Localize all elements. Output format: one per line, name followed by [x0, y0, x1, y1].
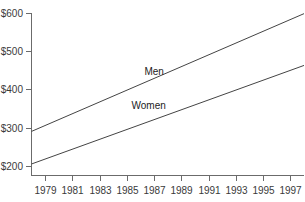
series-line-women — [32, 65, 305, 164]
series-annotation-women: Women — [132, 100, 166, 111]
chart-container: $200$300$400$500$600 1979198119831985198… — [0, 0, 305, 202]
y-tick-label: $300 — [1, 123, 24, 134]
x-tick-label: 1995 — [252, 185, 275, 196]
y-axis-tick-labels: $200$300$400$500$600 — [1, 8, 24, 172]
y-tick-label: $400 — [1, 84, 24, 95]
x-tick-label: 1993 — [225, 185, 248, 196]
y-tick-label: $500 — [1, 46, 24, 57]
x-axis-tick-labels: 1979198119831985198719891991199319951997 — [34, 185, 302, 196]
x-tick-label: 1987 — [143, 185, 166, 196]
x-tick-label: 1981 — [61, 185, 84, 196]
x-axis-ticks — [46, 176, 291, 182]
y-tick-label: $200 — [1, 161, 24, 172]
y-axis-ticks — [26, 14, 32, 167]
x-tick-label: 1983 — [89, 185, 112, 196]
series-lines-group — [32, 14, 305, 164]
y-tick-label: $600 — [1, 8, 24, 19]
series-annotations-group: MenWomen — [132, 66, 166, 111]
line-chart: $200$300$400$500$600 1979198119831985198… — [0, 0, 305, 202]
x-tick-label: 1985 — [116, 185, 139, 196]
series-line-men — [32, 14, 305, 132]
x-tick-label: 1991 — [198, 185, 221, 196]
x-tick-label: 1979 — [34, 185, 57, 196]
x-tick-label: 1997 — [279, 185, 302, 196]
series-annotation-men: Men — [144, 66, 163, 77]
x-tick-label: 1989 — [170, 185, 193, 196]
